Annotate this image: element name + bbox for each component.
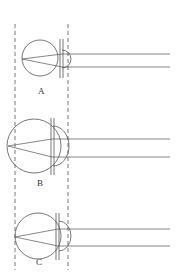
label-b: B — [37, 178, 43, 188]
label-c: C — [36, 257, 42, 267]
eye-diagram: A B C — [0, 0, 179, 272]
ray-top-inner — [22, 54, 62, 59]
eye-b: B — [7, 118, 170, 188]
ray-top-inner — [15, 229, 58, 237]
eye-a: A — [22, 39, 170, 96]
ray-top-inner — [8, 139, 52, 146]
label-a: A — [38, 86, 45, 96]
ray-bottom-inner — [22, 59, 62, 67]
ray-bottom-inner — [15, 237, 58, 246]
eye-c: C — [15, 213, 170, 267]
